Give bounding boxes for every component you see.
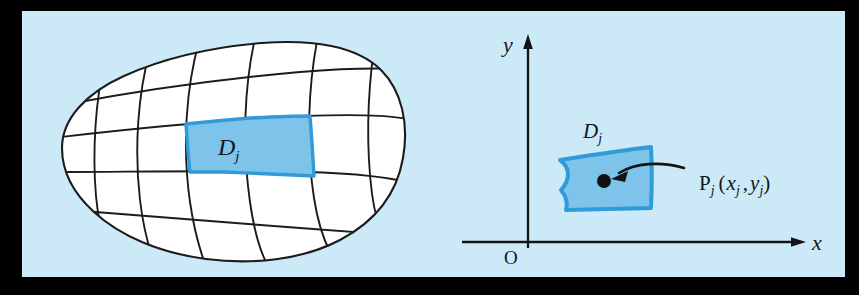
- figure-root: Dj y x O: [0, 0, 859, 295]
- x-axis-label: x: [811, 230, 822, 255]
- point-name: P: [699, 171, 711, 195]
- point-paren-close: ): [763, 171, 770, 195]
- sample-point-marker[interactable]: [597, 174, 611, 188]
- highlighted-subregion-cell[interactable]: [186, 116, 314, 176]
- point-coord-separator: ,: [743, 171, 748, 195]
- point-coord-y: y: [748, 171, 760, 195]
- right-region-label-letter: D: [582, 119, 598, 143]
- origin-label: O: [504, 247, 518, 268]
- point-paren-open: (: [719, 171, 726, 195]
- left-region-label-letter: D: [217, 134, 235, 160]
- y-axis-label: y: [501, 32, 513, 57]
- figure-canvas: Dj y x O: [0, 0, 859, 295]
